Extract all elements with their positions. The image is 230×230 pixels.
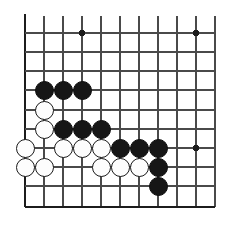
white-stone[interactable] [130, 158, 149, 177]
black-stone[interactable] [54, 81, 73, 100]
go-board-diagram [0, 0, 230, 230]
black-stone[interactable] [149, 158, 168, 177]
white-stone[interactable] [35, 158, 54, 177]
black-stone[interactable] [35, 81, 54, 100]
white-stone[interactable] [111, 158, 130, 177]
white-stone[interactable] [73, 139, 92, 158]
white-stone[interactable] [35, 101, 54, 120]
white-stone[interactable] [54, 139, 73, 158]
black-stone[interactable] [54, 120, 73, 139]
white-stone[interactable] [92, 158, 111, 177]
black-stone[interactable] [149, 139, 168, 158]
black-stone[interactable] [111, 139, 130, 158]
black-stone[interactable] [92, 120, 111, 139]
black-stone[interactable] [73, 81, 92, 100]
white-stone[interactable] [92, 139, 111, 158]
black-stone[interactable] [73, 120, 92, 139]
white-stone[interactable] [16, 158, 35, 177]
white-stone[interactable] [16, 139, 35, 158]
black-stone[interactable] [149, 177, 168, 196]
white-stone[interactable] [35, 120, 54, 139]
stone-layer [0, 0, 230, 230]
black-stone[interactable] [130, 139, 149, 158]
goban[interactable] [0, 0, 230, 230]
